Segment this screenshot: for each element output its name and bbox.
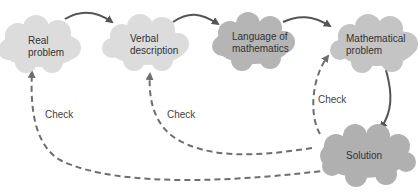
node-verbal-description: Verbal description [102, 14, 189, 71]
node-language-of-mathematics: Language of mathematics [212, 12, 295, 71]
node-label: Real [28, 35, 49, 46]
node-label: mathematics [232, 43, 289, 54]
arrow-mathematical-to-solution [381, 70, 390, 128]
node-label: Solution [346, 150, 382, 161]
node-label: problem [28, 47, 64, 58]
node-label: Language of [232, 31, 288, 42]
node-label: problem [346, 45, 382, 56]
arrow-language-to-mathematical [283, 17, 330, 26]
node-solution: Solution [320, 124, 416, 187]
modeling-cycle-diagram: Real problem Verbal description [0, 0, 419, 192]
node-mathematical-problem: Mathematical problem [330, 14, 418, 73]
node-label: description [130, 45, 178, 56]
check-arrow-to-real-problem [32, 72, 330, 180]
node-label: Mathematical [346, 33, 405, 44]
node-real-problem: Real problem [0, 15, 81, 73]
node-label: Verbal [130, 33, 158, 44]
arrow-verbal-to-language [173, 15, 218, 24]
edge-label-check: Check [167, 109, 196, 120]
edge-label-check: Check [45, 109, 74, 120]
arrow-real-to-verbal [65, 13, 112, 22]
edge-label-check: Check [318, 94, 347, 105]
